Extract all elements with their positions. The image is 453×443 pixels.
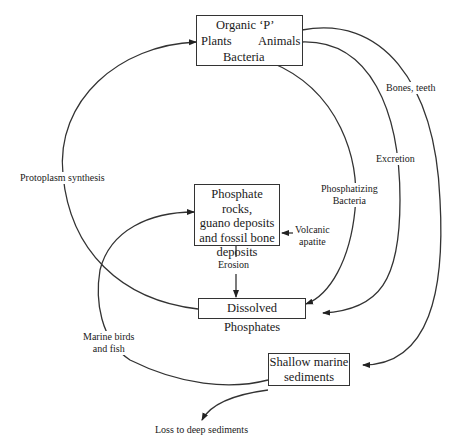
phosphate-line-1: Phosphate rocks, xyxy=(195,187,279,216)
erosion-label: Erosion xyxy=(218,259,249,271)
phosphatizing-line-2: Bacteria xyxy=(321,195,378,207)
phosphatizing-label: Phosphatizing Bacteria xyxy=(321,183,378,207)
phosphate-line-4: deposits xyxy=(195,245,279,260)
volcanic-line-2: apatite xyxy=(295,236,330,248)
phosphatizing-line-1: Phosphatizing xyxy=(321,183,378,195)
protoplasm-label: Protoplasm synthesis xyxy=(20,172,105,184)
shallow-line-1: Shallow marine xyxy=(269,355,349,370)
volcanic-label: Volcanic apatite xyxy=(295,224,330,248)
phosphate-line-3: and fossil bone xyxy=(195,231,279,246)
plants-label: Plants xyxy=(201,34,232,48)
organic-p-title: Organic ‘P’ xyxy=(216,18,274,32)
marine-birds-label: Marine birds and fish xyxy=(83,331,134,355)
loss-arrow xyxy=(202,390,268,420)
phosphate-line-2: guano deposits xyxy=(195,216,279,231)
volcanic-line-1: Volcanic xyxy=(295,224,330,236)
bacteria-label: Bacteria xyxy=(223,50,265,64)
shallow-line-2: sediments xyxy=(269,370,349,385)
dissolved-phosphates-box: Dissolved Phosphates xyxy=(198,298,306,319)
organic-p-box: Organic ‘P’ Plants Animals Bacteria xyxy=(196,15,303,66)
dissolved-phosphates-label: Dissolved Phosphates xyxy=(224,301,280,334)
marine-line-2: and fish xyxy=(83,343,134,355)
loss-label: Loss to deep sediments xyxy=(155,424,248,436)
phosphate-rocks-box: Phosphate rocks, guano deposits and foss… xyxy=(194,184,280,246)
marine-line-1: Marine birds xyxy=(83,331,134,343)
excretion-label: Excretion xyxy=(376,153,415,165)
animals-label: Animals xyxy=(258,34,300,48)
shallow-marine-box: Shallow marine sediments xyxy=(268,353,350,386)
bones-teeth-label: Bones, teeth xyxy=(386,82,435,94)
